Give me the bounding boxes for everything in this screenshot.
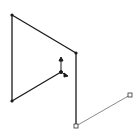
coordinate-origin-icon xyxy=(59,57,68,77)
endpoint-handle[interactable] xyxy=(74,124,78,128)
endpoint-handle[interactable] xyxy=(128,93,132,97)
sketch-line-bottom[interactable] xyxy=(12,72,61,101)
vertex-point[interactable] xyxy=(74,51,77,54)
vertex-point[interactable] xyxy=(10,99,13,102)
sketch-line-top[interactable] xyxy=(12,15,76,53)
vertex-point[interactable] xyxy=(10,13,13,16)
sketch-line-secondary[interactable] xyxy=(76,95,130,126)
sketch-graphics[interactable] xyxy=(0,0,137,139)
sketch-vertices[interactable] xyxy=(10,13,77,102)
sketch-profile[interactable] xyxy=(12,15,76,126)
cad-sketch-viewport[interactable] xyxy=(0,0,137,139)
